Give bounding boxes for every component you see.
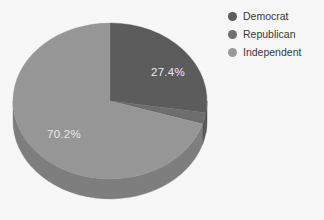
chart-legend: Democrat Republican Independent [228,9,324,59]
pie-slices [13,23,207,179]
legend-label-republican: Republican [243,27,296,41]
legend-swatch-democrat-icon [228,12,237,21]
pie-chart-figure: 27.4% 70.2% Democrat Republican Independ… [0,0,324,220]
legend-item-republican[interactable]: Republican [228,27,324,41]
data-label-democrat: 27.4% [151,66,185,78]
data-label-independent: 70.2% [47,128,81,140]
legend-label-democrat: Democrat [243,9,289,23]
legend-item-independent[interactable]: Independent [228,45,324,59]
legend-swatch-independent-icon [228,48,237,57]
legend-label-independent: Independent [243,45,301,59]
legend-item-democrat[interactable]: Democrat [228,9,324,23]
legend-swatch-republican-icon [228,30,237,39]
